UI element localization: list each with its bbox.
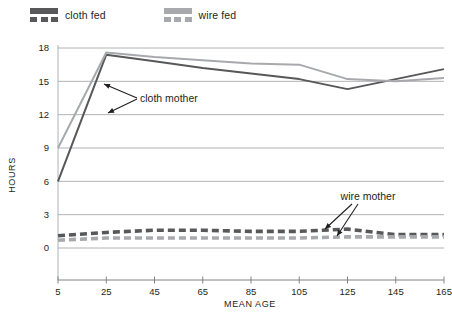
y-axis-title: HOURS: [7, 157, 17, 193]
x-axis-tick-labels: 525456585105125145165: [55, 286, 452, 297]
x-axis-title: MEAN AGE: [224, 299, 276, 309]
x-tick-label: 45: [149, 286, 160, 297]
y-tick-label: 15: [38, 76, 49, 87]
x-tick-label: 105: [291, 286, 307, 297]
series-line: [58, 229, 444, 236]
data-series-lines: [58, 52, 444, 240]
y-tick-label: 12: [38, 109, 49, 120]
plot-area: 0369121518 525456585105125145165 cloth m…: [0, 0, 452, 314]
x-tick-label: 85: [246, 286, 257, 297]
series-line: [58, 237, 444, 240]
x-tick-label: 25: [101, 286, 112, 297]
annotation-wire-mother: wire mother: [340, 190, 396, 202]
series-line: [58, 52, 444, 148]
x-tick-label: 165: [436, 286, 452, 297]
y-axis-tick-labels: 0369121518: [38, 42, 49, 253]
gridlines: [58, 48, 444, 248]
y-tick-label: 3: [44, 209, 49, 220]
chart-container: cloth fed wire fed 0369121518 5254565851…: [0, 0, 452, 314]
y-tick-label: 6: [44, 176, 49, 187]
y-tick-label: 18: [38, 42, 49, 53]
x-tick-label: 145: [388, 286, 404, 297]
chart-svg: 0369121518 525456585105125145165 cloth m…: [0, 0, 452, 314]
x-tick-label: 125: [340, 286, 356, 297]
x-tick-label: 65: [197, 286, 208, 297]
series-line: [58, 55, 444, 182]
x-tick-label: 5: [55, 286, 60, 297]
annotation-layer: cloth motherwire mother: [104, 84, 396, 236]
y-tick-label: 0: [44, 242, 49, 253]
y-tick-label: 9: [44, 142, 49, 153]
annotation-cloth-mother: cloth mother: [140, 92, 198, 104]
